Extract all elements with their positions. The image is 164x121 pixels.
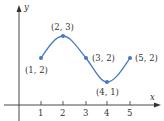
y-axis-label: y xyxy=(24,3,29,12)
point-2-3 xyxy=(61,34,65,38)
x-tick-label: 1 xyxy=(38,109,43,118)
point-label: (4, 1) xyxy=(96,88,119,97)
x-tick-label: 2 xyxy=(60,109,65,118)
point-3-2 xyxy=(84,56,88,60)
x-axis-label: x xyxy=(150,93,155,102)
point-1-2 xyxy=(39,56,43,60)
x-tick-label: 4 xyxy=(104,109,109,118)
point-label: (2, 3) xyxy=(51,23,74,32)
x-ticks xyxy=(41,101,130,105)
x-tick-label: 5 xyxy=(127,109,132,118)
x-tick-label: 3 xyxy=(83,109,88,118)
x-axis-arrow-icon xyxy=(154,103,161,108)
point-label: (1, 2) xyxy=(25,66,48,75)
point-label: (5, 2) xyxy=(135,54,158,63)
y-axis-arrow-icon xyxy=(17,5,22,12)
point-5-2 xyxy=(128,56,132,60)
point-4-1 xyxy=(105,80,109,84)
point-label: (3, 2) xyxy=(92,54,115,63)
